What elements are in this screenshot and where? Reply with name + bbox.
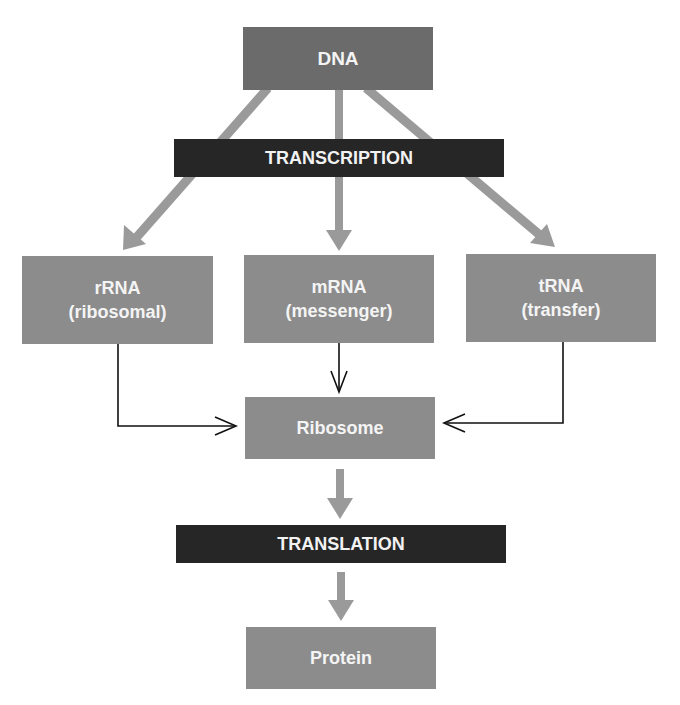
transcription-bar: TRANSCRIPTION — [174, 139, 504, 177]
trna-description: (transfer) — [521, 298, 600, 322]
gene-expression-diagram: DNA TRANSCRIPTION rRNA (ribosomal) mRNA … — [0, 0, 680, 705]
arrow-translation-to-protein — [328, 572, 354, 621]
ribosome-node: Ribosome — [245, 397, 435, 459]
mrna-node: mRNA (messenger) — [244, 255, 434, 343]
ribosome-label: Ribosome — [296, 416, 383, 440]
translation-label: TRANSLATION — [277, 534, 405, 555]
connectors-layer — [0, 0, 680, 705]
rrna-description: (ribosomal) — [68, 300, 166, 324]
transcription-label: TRANSCRIPTION — [265, 148, 413, 169]
trna-node: tRNA (transfer) — [466, 254, 656, 342]
arrow-ribosome-to-translation — [327, 469, 353, 519]
arrow-rrna-to-ribosome — [118, 344, 236, 435]
dna-node: DNA — [243, 27, 433, 90]
protein-label: Protein — [310, 646, 372, 670]
rrna-node: rRNA (ribosomal) — [22, 256, 213, 344]
rrna-name: rRNA — [94, 276, 140, 300]
mrna-description: (messenger) — [285, 299, 392, 323]
dna-label: DNA — [317, 48, 358, 70]
translation-bar: TRANSLATION — [176, 525, 506, 563]
arrow-trna-to-ribosome — [444, 342, 563, 432]
arrow-mrna-to-ribosome — [331, 343, 347, 392]
trna-name: tRNA — [539, 274, 584, 298]
protein-node: Protein — [246, 627, 436, 689]
mrna-name: mRNA — [311, 275, 366, 299]
